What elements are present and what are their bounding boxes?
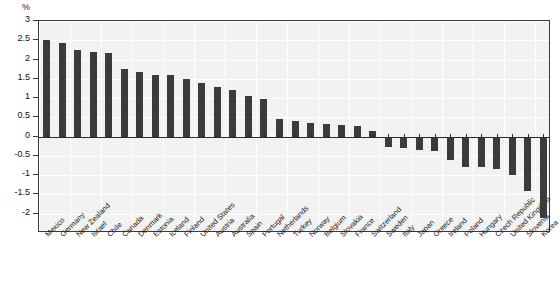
- x-tick: [279, 134, 280, 138]
- gridline-vertical: [256, 21, 257, 231]
- x-tick: [248, 134, 249, 138]
- x-tick: [109, 134, 110, 138]
- bar: [136, 72, 143, 137]
- x-tick: [357, 134, 358, 138]
- bar: [540, 137, 547, 218]
- zero-baseline: [39, 137, 549, 138]
- gridline-vertical: [225, 21, 226, 231]
- bar: [245, 96, 252, 136]
- bar: [385, 137, 392, 148]
- gridline-vertical: [132, 21, 133, 231]
- y-axis-tick: [33, 116, 38, 117]
- x-tick: [171, 134, 172, 138]
- y-axis-tick-label: 1: [0, 92, 30, 101]
- x-tick: [388, 134, 389, 138]
- bar: [524, 137, 531, 192]
- y-axis-tick: [33, 97, 38, 98]
- gridline-vertical: [318, 21, 319, 231]
- bar: [478, 137, 485, 168]
- x-tick: [233, 134, 234, 138]
- gridline-vertical: [70, 21, 71, 231]
- gridline-vertical: [411, 21, 412, 231]
- x-tick: [435, 134, 436, 138]
- gridline-vertical: [194, 21, 195, 231]
- x-tick: [124, 134, 125, 138]
- x-tick: [326, 134, 327, 138]
- y-axis-tick: [33, 78, 38, 79]
- y-axis-tick-label: 0.5: [0, 111, 30, 120]
- gridline-vertical: [473, 21, 474, 231]
- bar: [152, 75, 159, 137]
- y-axis-tick-label: 1.5: [0, 73, 30, 82]
- gridline-vertical: [163, 21, 164, 231]
- gridline-vertical: [39, 21, 40, 231]
- y-axis-tick-label: -2: [0, 208, 30, 217]
- bar: [198, 83, 205, 137]
- x-axis-labels: MexicoGermanyNew ZealandIsraelChileCanad…: [38, 233, 550, 281]
- bar: [416, 137, 423, 150]
- gridline-vertical: [380, 21, 381, 231]
- x-tick: [528, 134, 529, 138]
- bar: [59, 43, 66, 136]
- x-tick: [93, 134, 94, 138]
- x-tick: [311, 134, 312, 138]
- bar: [121, 69, 128, 136]
- x-tick: [264, 134, 265, 138]
- x-tick: [450, 134, 451, 138]
- x-tick: [47, 134, 48, 138]
- gridline-vertical: [101, 21, 102, 231]
- bar: [74, 50, 81, 137]
- bar: [447, 137, 454, 160]
- bar: [260, 99, 267, 137]
- y-axis-tick: [33, 59, 38, 60]
- bar: [462, 137, 469, 167]
- y-axis-tick-label: -1.5: [0, 188, 30, 197]
- x-tick: [543, 134, 544, 138]
- x-tick: [497, 134, 498, 138]
- bar: [493, 137, 500, 170]
- plot-area: [38, 20, 550, 232]
- bar: [214, 87, 221, 136]
- y-axis-tick: [33, 174, 38, 175]
- x-tick: [481, 134, 482, 138]
- x-tick: [140, 134, 141, 138]
- bar: [43, 40, 50, 137]
- bar: [400, 137, 407, 149]
- bar: [229, 90, 236, 136]
- bar: [167, 75, 174, 137]
- x-tick: [342, 134, 343, 138]
- y-axis-tick-label: 3: [0, 15, 30, 24]
- x-tick: [419, 134, 420, 138]
- bar: [90, 52, 97, 137]
- gridline-vertical: [504, 21, 505, 231]
- y-axis-tick: [33, 155, 38, 156]
- x-tick: [404, 134, 405, 138]
- bar: [431, 137, 438, 152]
- y-axis-tick-label: 0: [0, 131, 30, 140]
- y-axis-tick: [33, 136, 38, 137]
- x-tick: [186, 134, 187, 138]
- x-tick: [217, 134, 218, 138]
- y-axis-tick: [33, 20, 38, 21]
- y-axis-tick-label: -1: [0, 169, 30, 178]
- x-tick: [62, 134, 63, 138]
- bar: [509, 137, 516, 176]
- x-tick: [466, 134, 467, 138]
- y-axis-tick: [33, 213, 38, 214]
- y-axis-tick-label: -0.5: [0, 150, 30, 159]
- axis-unit-label: %: [22, 2, 30, 12]
- y-axis-tick: [33, 193, 38, 194]
- x-tick: [512, 134, 513, 138]
- x-tick: [373, 134, 374, 138]
- x-tick: [155, 134, 156, 138]
- y-axis-tick-label: 2.5: [0, 34, 30, 43]
- gridline-vertical: [349, 21, 350, 231]
- y-axis-tick-label: 2: [0, 54, 30, 63]
- bar: [183, 79, 190, 137]
- y-axis-tick: [33, 39, 38, 40]
- x-tick: [78, 134, 79, 138]
- bar: [105, 53, 112, 136]
- gridline-vertical: [442, 21, 443, 231]
- x-tick: [295, 134, 296, 138]
